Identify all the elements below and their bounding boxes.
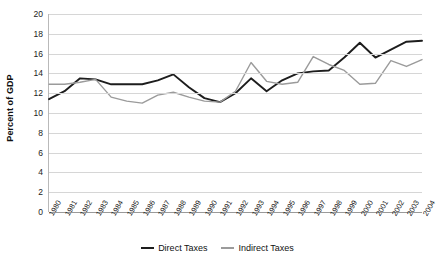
y-tick-label: 4: [38, 167, 43, 177]
plot-area: [48, 14, 422, 212]
chart-legend: Direct TaxesIndirect Taxes: [0, 243, 435, 253]
gridline-6: [49, 153, 422, 154]
y-tick-label: 16: [34, 49, 43, 59]
y-tick-label: 18: [34, 29, 43, 39]
legend-line-swatch: [141, 247, 154, 249]
legend-line-swatch: [221, 247, 234, 249]
y-tick-label: 14: [34, 68, 43, 78]
y-axis-title-text: Percent of GDP: [5, 74, 15, 141]
y-axis-tick-labels: 02468101214161820: [20, 14, 46, 212]
legend-item[interactable]: Indirect Taxes: [221, 243, 293, 253]
y-tick-label: 2: [38, 187, 43, 197]
legend-label: Direct Taxes: [158, 243, 207, 253]
gridline-4: [49, 172, 422, 173]
gridline-2: [49, 192, 422, 193]
x-tick-label: 2004: [421, 199, 437, 218]
gridline-16: [49, 54, 422, 55]
y-tick-label: 6: [38, 148, 43, 158]
y-axis-title: Percent of GDP: [0, 0, 20, 215]
gridline-8: [49, 133, 422, 134]
legend-label: Indirect Taxes: [238, 243, 293, 253]
y-tick-label: 8: [38, 128, 43, 138]
y-tick-label: 12: [34, 88, 43, 98]
series-line: [49, 57, 422, 104]
gridline-10: [49, 113, 422, 114]
y-tick-label: 10: [34, 108, 43, 118]
x-axis-tick-labels: 1980198119821983198419851986198719881989…: [48, 213, 422, 247]
gridline-12: [49, 93, 422, 94]
y-tick-label: 0: [38, 207, 43, 217]
gridline-20: [49, 14, 422, 15]
y-tick-label: 20: [34, 9, 43, 19]
legend-item[interactable]: Direct Taxes: [141, 243, 207, 253]
gridline-14: [49, 73, 422, 74]
gridline-18: [49, 34, 422, 35]
